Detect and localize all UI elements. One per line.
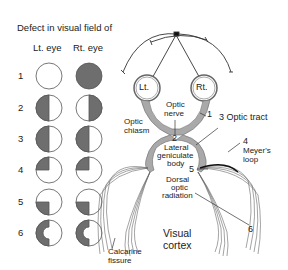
visual-cortex-label-2: cortex — [163, 240, 192, 251]
field-left-5 — [36, 189, 62, 215]
field-left-1 — [36, 63, 62, 89]
left-optic-radiation — [98, 167, 150, 257]
field-right-5 — [76, 189, 102, 215]
field-right-3 — [76, 126, 102, 152]
visual-field-arcs — [121, 32, 233, 82]
lgb-label-3: body — [167, 160, 184, 168]
right-optic-radiation — [198, 165, 261, 256]
meyers-loop-label-2: loop — [243, 156, 258, 164]
field-left-6 — [36, 220, 62, 246]
column-header-right-eye: Rt. eye — [73, 43, 103, 53]
right-eye-label: Rt. — [196, 83, 208, 92]
field-left-2 — [36, 95, 62, 121]
optic-nerve-label-2: nerve — [164, 110, 184, 118]
row-number: 5 — [18, 197, 23, 207]
field-left-3 — [36, 126, 62, 152]
lesion-number-1: 1 — [207, 110, 212, 119]
field-right-4 — [76, 157, 102, 183]
row-number: 3 — [18, 134, 23, 144]
row-number: 1 — [18, 71, 23, 81]
visual-field-circles — [36, 63, 102, 246]
dorsal-radiation-label-3: radiation — [162, 192, 193, 200]
row-number: 6 — [18, 228, 23, 238]
optic-tract-label: 3 Optic tract — [219, 113, 268, 122]
calcarine-fissure-label-2: fissure — [108, 257, 132, 265]
optic-chiasm-label-2: chiasm — [124, 127, 149, 135]
row-number: 2 — [18, 103, 23, 113]
figure-title: Defect in visual field of — [17, 23, 112, 33]
visual-cortex-label-1: Visual — [163, 228, 191, 239]
lesion-number-6: 6 — [248, 225, 253, 234]
lesion-number-5: 5 — [189, 165, 194, 174]
left-eye-label: Lt. — [139, 83, 149, 92]
field-left-4 — [36, 157, 62, 183]
field-right-2 — [76, 95, 102, 121]
column-header-left-eye: Lt. eye — [33, 43, 62, 53]
row-number: 4 — [18, 165, 23, 175]
field-right-1 — [76, 63, 102, 89]
